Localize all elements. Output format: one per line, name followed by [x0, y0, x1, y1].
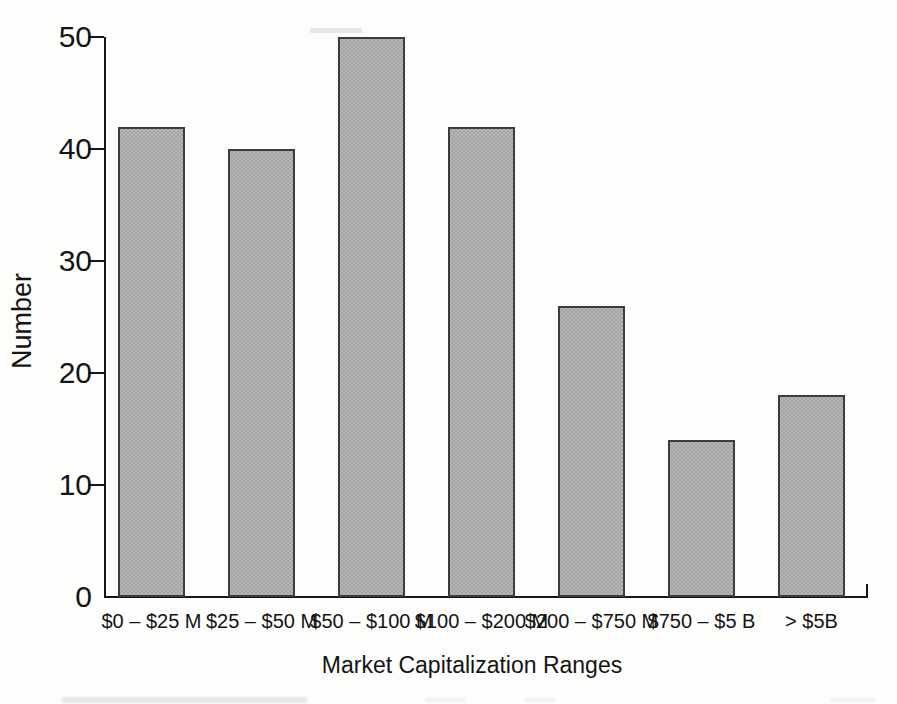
category-label-1: $0 – $25 M: [101, 609, 201, 633]
category-label-5: $200 – $750 M: [525, 609, 658, 633]
category-label-2: $25 – $50 M: [206, 609, 317, 633]
bar-3: [338, 37, 405, 597]
bar-4: [448, 127, 515, 597]
bar-5: [558, 306, 625, 597]
y-tick-label: 40: [30, 133, 92, 165]
bar-1: [118, 127, 185, 597]
category-label-6: $750 – $5 B: [648, 609, 756, 633]
cropped-text-artifact: [425, 698, 465, 702]
bar-6: [668, 440, 735, 597]
bar-7: [778, 395, 845, 597]
y-tick-label: 0: [30, 581, 92, 613]
scanned-bar-chart-figure: 01020304050 $0 – $25 M$25 – $50 M$50 – $…: [0, 0, 897, 704]
x-axis-title: Market Capitalization Ranges: [322, 651, 622, 679]
y-axis-line: [104, 37, 106, 598]
category-label-7: > $5B: [785, 609, 838, 633]
scan-smudge-artifact: [310, 28, 362, 33]
cropped-text-artifact: [830, 698, 875, 702]
y-tick-label: 10: [30, 469, 92, 501]
x-axis-end-tick: [866, 584, 868, 597]
y-tick-label: 50: [30, 21, 92, 53]
y-axis-title: Number: [7, 221, 37, 421]
bar-2: [228, 149, 295, 597]
y-tick-label: 20: [30, 357, 92, 389]
cropped-text-artifact: [525, 698, 555, 702]
y-tick-label: 30: [30, 245, 92, 277]
cropped-text-artifact: [62, 697, 307, 703]
